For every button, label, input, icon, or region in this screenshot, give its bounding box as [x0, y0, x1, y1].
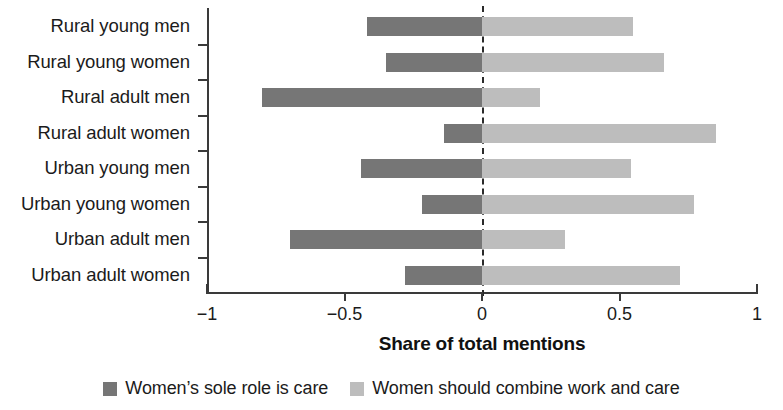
y-axis-label: Rural young women [27, 44, 190, 80]
y-axis-label: Urban young women [21, 186, 190, 222]
plot-area [207, 8, 757, 292]
bar-row [207, 257, 757, 293]
bar-combine [482, 17, 633, 36]
bar-combine [482, 266, 680, 285]
y-axis-tick [198, 257, 207, 259]
y-axis-tick [198, 115, 207, 117]
y-axis-tick [198, 221, 207, 223]
bar-combine [482, 88, 540, 107]
legend-swatch-icon-combine [350, 382, 364, 396]
y-axis-tick [198, 150, 207, 152]
y-axis-label: Rural young men [51, 8, 190, 44]
bar-row [207, 8, 757, 44]
x-axis-tick-label: −1 [197, 304, 218, 325]
legend-label-combine: Women should combine work and care [372, 378, 679, 399]
y-axis-label: Urban adult men [55, 221, 190, 257]
bar-sole-role [386, 53, 482, 72]
y-axis-label: Rural adult men [61, 79, 190, 115]
bar-row [207, 221, 757, 257]
x-axis-title: Share of total mentions [207, 333, 757, 355]
bar-sole-role [422, 195, 483, 214]
x-axis-tick [344, 292, 346, 301]
bar-combine [482, 124, 716, 143]
bar-combine [482, 230, 565, 249]
bar-combine [482, 195, 694, 214]
y-axis-label: Urban young men [44, 150, 190, 186]
x-axis-tick-label: −0.5 [327, 304, 363, 325]
x-axis-tick [619, 292, 621, 301]
y-axis-tick [198, 44, 207, 46]
bar-sole-role [367, 17, 483, 36]
diverging-bar-chart: Rural young menRural young womenRural ad… [0, 0, 783, 410]
legend-label-sole-role: Women’s sole role is care [125, 378, 328, 399]
legend-item-combine: Women should combine work and care [350, 378, 679, 399]
legend-swatch-icon-sole-role [103, 382, 117, 396]
y-axis-label: Rural adult women [37, 115, 190, 151]
bar-sole-role [405, 266, 482, 285]
bar-row [207, 115, 757, 151]
bar-row [207, 44, 757, 80]
bar-combine [482, 53, 664, 72]
y-axis-tick [198, 186, 207, 188]
bar-sole-role [290, 230, 483, 249]
x-axis-tick-label: 0.5 [607, 304, 632, 325]
y-axis-category-labels: Rural young menRural young womenRural ad… [0, 0, 200, 292]
bar-sole-role [262, 88, 482, 107]
bar-sole-role [361, 159, 482, 178]
bar-row [207, 150, 757, 186]
y-axis-label: Urban adult women [31, 257, 190, 293]
chart-legend: Women’s sole role is care Women should c… [0, 378, 783, 399]
bar-row [207, 186, 757, 222]
legend-item-sole-role: Women’s sole role is care [103, 378, 328, 399]
y-axis-tick [198, 79, 207, 81]
bar-sole-role [444, 124, 483, 143]
x-axis-tick-label: 0 [477, 304, 487, 325]
bar-row [207, 79, 757, 115]
bar-combine [482, 159, 631, 178]
x-axis-tick-label: 1 [752, 304, 762, 325]
x-axis-tick [481, 292, 483, 301]
